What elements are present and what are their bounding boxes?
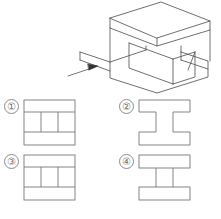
solid-left-corner-lines	[110, 28, 146, 62]
option-2-figure	[138, 99, 191, 146]
top-slab-top-face	[110, 2, 210, 38]
option-1-svg	[23, 99, 76, 146]
option-4-number: ④	[119, 154, 134, 169]
option-2-svg	[138, 99, 191, 146]
option-1-figure	[23, 99, 76, 146]
i-beam-profile-outline	[139, 100, 190, 145]
option-4-svg	[138, 154, 191, 201]
view-direction-arrow	[68, 64, 98, 76]
central-web-top-edges	[129, 43, 195, 59]
option-4-figure	[138, 154, 191, 201]
outer-rectangle	[24, 100, 75, 145]
central-web-right-face	[173, 52, 195, 84]
option-4[interactable]: ④	[119, 154, 191, 201]
bottom-bar	[139, 187, 190, 200]
option-3-svg	[23, 154, 76, 201]
top-slab-front-right-face	[157, 21, 210, 46]
option-3-number: ③	[4, 154, 19, 169]
option-2[interactable]: ②	[119, 99, 191, 146]
bottom-slab-top-face	[80, 60, 208, 93]
option-1-number: ①	[4, 99, 19, 114]
central-web-left-face	[129, 43, 173, 84]
option-3[interactable]: ③	[4, 154, 76, 201]
option-1[interactable]: ①	[4, 99, 76, 146]
isometric-solid-figure	[60, 0, 221, 95]
question-canvas: ① ②	[0, 0, 221, 219]
option-3-figure	[23, 154, 76, 201]
top-slab-front-left-face	[110, 18, 157, 46]
option-2-number: ②	[119, 99, 134, 114]
outer-rectangle	[24, 155, 75, 200]
top-bar	[139, 155, 190, 168]
options-group: ① ②	[0, 93, 221, 219]
isometric-solid-svg	[60, 0, 221, 95]
